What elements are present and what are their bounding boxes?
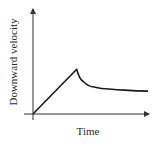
chart-canvas	[0, 0, 155, 144]
velocity-curve	[33, 69, 148, 114]
velocity-time-chart: Downward velocity Time	[0, 0, 155, 144]
x-axis-label: Time	[77, 125, 100, 137]
y-axis-label: Downward velocity	[7, 18, 19, 105]
